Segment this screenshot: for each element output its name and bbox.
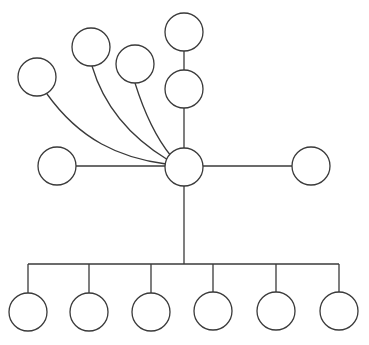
- tree-diagram: [0, 0, 369, 345]
- node-child-3: [132, 293, 170, 331]
- node-child-2: [70, 293, 108, 331]
- node-child-4: [194, 292, 232, 330]
- node-top-upper: [165, 13, 203, 51]
- node-fan-left: [18, 58, 56, 96]
- node-child-5: [257, 292, 295, 330]
- node-child-1: [9, 293, 47, 331]
- node-top-lower: [165, 70, 203, 108]
- node-side-right: [292, 147, 330, 185]
- node-child-6: [320, 292, 358, 330]
- node-fan-mid: [72, 28, 110, 66]
- node-hub: [165, 148, 203, 186]
- node-side-left: [38, 147, 76, 185]
- node-fan-right: [116, 45, 154, 83]
